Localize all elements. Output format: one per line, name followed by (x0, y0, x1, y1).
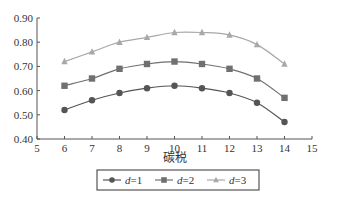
y-tick-label: 0.60 (14, 85, 34, 97)
series-lines (61, 29, 287, 125)
legend: d=1d=2d=3 (97, 170, 259, 190)
circle-marker (109, 177, 115, 183)
y-tick-label: 0.40 (14, 133, 34, 145)
x-tick-label: 7 (89, 142, 95, 154)
square-marker (116, 66, 122, 72)
x-tick-label: 11 (197, 142, 208, 154)
circle-marker (61, 107, 67, 113)
series-d-2 (61, 58, 287, 101)
circle-marker (144, 85, 150, 91)
circle-marker (199, 85, 205, 91)
x-tick-label: 8 (117, 142, 123, 154)
y-tick-label: 0.90 (14, 12, 34, 24)
square-marker (281, 95, 287, 101)
square-marker (171, 58, 177, 64)
square-marker (254, 75, 260, 81)
x-tick-label: 13 (252, 142, 264, 154)
square-marker (161, 177, 167, 183)
y-tick-label: 0.50 (14, 109, 34, 121)
y-tick-label: 0.70 (14, 60, 34, 72)
x-tick-label: 6 (62, 142, 68, 154)
triangle-marker (281, 60, 287, 66)
square-marker (89, 75, 95, 81)
circle-marker (171, 83, 177, 89)
x-tick-label: 5 (34, 142, 40, 154)
circle-marker (89, 97, 95, 103)
x-tick-label: 15 (307, 142, 319, 154)
circle-marker (254, 100, 260, 106)
circle-marker (116, 90, 122, 96)
square-marker (61, 83, 67, 89)
series-line (65, 86, 285, 122)
legend-label: d=2 (177, 174, 194, 186)
square-marker (199, 61, 205, 67)
chart-svg: 0.400.500.600.700.800.905678910111213141… (0, 0, 348, 199)
series-line (65, 62, 285, 98)
y-tick-label: 0.80 (14, 36, 34, 48)
x-axis-label: 碳税 (163, 151, 187, 165)
series-d-1 (61, 83, 287, 126)
square-marker (144, 61, 150, 67)
circle-marker (281, 119, 287, 125)
x-tick-label: 9 (144, 142, 150, 154)
legend-label: d=1 (125, 174, 142, 186)
x-tick-label: 14 (279, 142, 291, 154)
x-tick-label: 12 (224, 142, 235, 154)
square-marker (226, 66, 232, 72)
circle-marker (226, 90, 232, 96)
line-chart: 0.400.500.600.700.800.905678910111213141… (0, 0, 348, 199)
legend-label: d=3 (229, 174, 247, 186)
